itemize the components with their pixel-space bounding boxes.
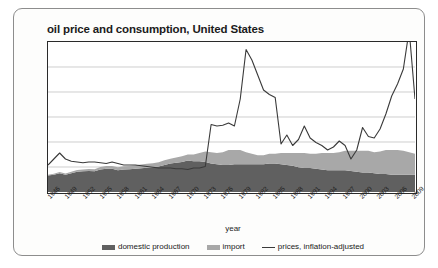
legend-label: domestic production [118, 243, 190, 251]
legend-label: import [223, 243, 245, 251]
legend-item: prices, inflation-adjusted [262, 243, 364, 251]
legend-item: import [207, 243, 245, 251]
chart-legend: domestic productionimportprices, inflati… [14, 243, 438, 251]
legend-line-marker-icon [262, 247, 275, 248]
x-axis-tick-labels: 1946194919521955195819611964196719701973… [47, 195, 425, 223]
chart-canvas [48, 42, 415, 192]
page-title: oil price and consumption, United States [47, 23, 264, 35]
legend-swatch-icon [102, 245, 115, 250]
chart-plot-area [47, 41, 417, 194]
figure-frame: oil price and consumption, United States… [13, 8, 425, 256]
legend-swatch-icon [207, 245, 220, 250]
legend-item: domestic production [102, 243, 190, 251]
x-axis-title: year [14, 224, 438, 233]
legend-label: prices, inflation-adjusted [278, 243, 364, 251]
